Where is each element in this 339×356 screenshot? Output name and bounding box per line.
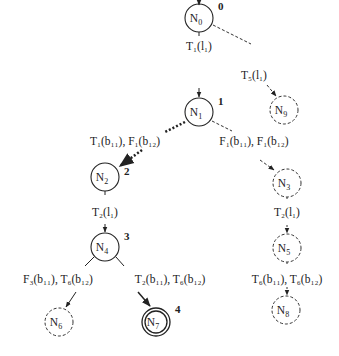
node-n4: N4 — [91, 233, 119, 261]
edge-label-n5-n8: T₆(b₁₁), T₆(b₁₂) — [252, 273, 323, 286]
node-n1: N1 — [185, 98, 213, 126]
node-n3: N3 — [273, 169, 301, 197]
svg-text:N4: N4 — [96, 241, 108, 256]
node-n9: N9 — [270, 96, 298, 124]
edge-label-n4-n7: T₂(b₁₁), T₆(b₁₂) — [135, 273, 206, 286]
step-number-3: 3 — [124, 230, 130, 242]
edge-label-n0-n1: T₁(l₁) — [186, 40, 212, 53]
step-number-2: 2 — [124, 165, 130, 177]
edge-label-n2-n4: T₂(l₁) — [92, 206, 118, 219]
svg-text:N5: N5 — [278, 242, 290, 257]
edge-label-n0-n9: T₅(l₁) — [241, 69, 267, 82]
node-n6: N6 — [45, 308, 73, 336]
edge-label-n4-n6: F₃(b₁₁), T₆(b₁₂) — [23, 273, 93, 286]
svg-text:N6: N6 — [50, 316, 62, 331]
node-n8: N8 — [272, 296, 300, 324]
edge-label-n1-n2: T₁(b₁₁), F₁(b₁₂) — [90, 135, 160, 148]
node-n7-final: N7 — [142, 308, 170, 336]
svg-text:N3: N3 — [278, 177, 290, 192]
node-n0: N0 — [185, 4, 213, 32]
step-number-1: 1 — [218, 95, 224, 107]
node-n2: N2 — [91, 163, 119, 191]
svg-text:N9: N9 — [275, 104, 287, 119]
execution-tree-diagram: T₁(l₁) T₅(l₁) T₁(b₁₁), F₁(b₁₂) F₁(b₁₁), … — [0, 0, 339, 356]
svg-text:N1: N1 — [190, 106, 202, 121]
edge-label-n1-n3: F₁(b₁₁), F₁(b₁₂) — [219, 135, 289, 148]
node-n5: N5 — [273, 234, 301, 262]
svg-text:N2: N2 — [96, 171, 108, 186]
svg-text:N7: N7 — [147, 316, 159, 331]
svg-text:N0: N0 — [190, 12, 202, 27]
edge-label-n3-n5: T₂(l₁) — [274, 206, 300, 219]
step-number-4: 4 — [175, 303, 181, 315]
step-number-0: 0 — [218, 0, 224, 12]
svg-text:N8: N8 — [277, 304, 289, 319]
edge-n0-n9 — [213, 25, 276, 96]
